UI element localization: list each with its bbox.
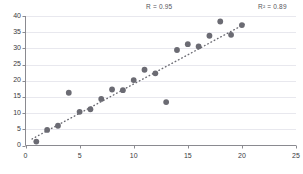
x-tick-label: 15 <box>179 152 197 159</box>
plot-area <box>0 0 303 174</box>
y-tick-label: 10 <box>3 109 21 116</box>
data-point <box>77 109 83 115</box>
r-squared-annotation: R² = 0.89 <box>258 3 287 10</box>
data-point <box>196 44 202 50</box>
x-tick-label: 20 <box>233 152 251 159</box>
scatter-chart: R = 0.95 R² = 0.89 0510152025303540 0510… <box>0 0 303 174</box>
x-tick-label: 25 <box>287 152 303 159</box>
correlation-annotation: R = 0.95 <box>146 3 172 10</box>
data-point <box>109 87 115 93</box>
data-point <box>185 41 191 47</box>
data-point <box>98 96 104 102</box>
y-tick-label: 40 <box>3 12 21 19</box>
data-point <box>217 19 223 25</box>
y-tick-label: 15 <box>3 92 21 99</box>
data-point <box>142 67 148 73</box>
data-point <box>163 99 169 105</box>
x-tick-label: 5 <box>71 152 89 159</box>
data-point <box>120 87 126 93</box>
data-point <box>239 22 245 28</box>
y-tick-label: 25 <box>3 60 21 67</box>
data-point <box>152 70 158 76</box>
data-point <box>207 33 213 39</box>
data-point <box>131 77 137 83</box>
data-point <box>88 106 94 112</box>
x-tick-label: 10 <box>125 152 143 159</box>
y-tick-label: 0 <box>3 141 21 148</box>
x-tick-label: 0 <box>17 152 35 159</box>
y-tick-label: 30 <box>3 44 21 51</box>
data-point <box>66 90 72 96</box>
gridlines <box>26 17 297 130</box>
data-point <box>44 127 50 133</box>
y-tick-label: 35 <box>3 28 21 35</box>
data-point <box>174 47 180 53</box>
data-point <box>228 32 234 38</box>
y-tick-label: 5 <box>3 125 21 132</box>
y-tick-label: 20 <box>3 76 21 83</box>
data-point <box>33 139 39 145</box>
data-point <box>55 123 61 129</box>
